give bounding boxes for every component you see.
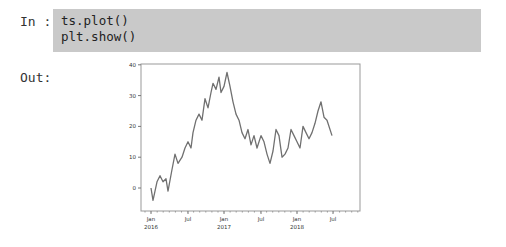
y-tick-label: 10: [129, 154, 136, 160]
y-tick-label: 0: [133, 185, 137, 191]
y-tick-label: 20: [129, 123, 136, 129]
x-tick-sublabel: 2016: [144, 224, 158, 230]
axes-frame: [141, 64, 360, 211]
x-tick-label: Jan: [219, 216, 229, 223]
y-tick-label: 30: [129, 93, 136, 99]
x-tick-sublabel: 2018: [290, 224, 304, 230]
x-axis: Jan2016JulJan2017JulJan2018Jul: [144, 211, 358, 230]
x-tick-label: Jul: [257, 216, 265, 223]
x-tick-label: Jan: [292, 216, 302, 223]
x-tick-label: Jul: [329, 216, 337, 223]
series-line: [151, 73, 332, 201]
y-axis: 010203040: [129, 62, 141, 191]
x-tick-label: Jan: [146, 216, 156, 223]
line-chart: 010203040 Jan2016JulJan2017JulJan2018Jul: [0, 0, 506, 247]
y-tick-label: 40: [129, 62, 136, 68]
x-tick-label: Jul: [184, 216, 192, 223]
x-tick-sublabel: 2017: [217, 224, 231, 230]
